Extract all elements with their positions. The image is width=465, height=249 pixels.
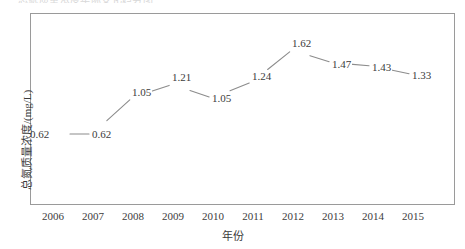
x-axis-tick-label: 2006: [33, 210, 73, 223]
data-point-label: 1.33: [411, 69, 432, 81]
x-axis-tick-label: 2007: [73, 210, 113, 223]
x-axis-tick-label: 2014: [353, 210, 393, 223]
series-total-nitrogen: [70, 52, 409, 134]
data-point-label: 1.62: [291, 37, 312, 49]
x-axis-tick-label: 2015: [393, 210, 433, 223]
data-point-label: 1.21: [171, 71, 192, 83]
series-segment: [230, 83, 249, 91]
x-axis-tick-label: 2013: [313, 210, 353, 223]
x-axis-tick-label: 2012: [273, 210, 313, 223]
x-axis-tick-label: 2010: [193, 210, 233, 223]
series-segment: [107, 100, 130, 121]
y-axis-title: 总氮质量浓度/(mg/L): [18, 90, 34, 190]
x-axis-tick-label: 2008: [113, 210, 153, 223]
series-segment: [268, 52, 290, 70]
x-axis-tick-label: 2011: [233, 210, 273, 223]
series-segment: [190, 90, 209, 96]
data-point-label: 0.62: [91, 128, 112, 140]
data-point-label: 1.05: [211, 92, 232, 104]
data-point-label: 1.24: [251, 70, 272, 82]
series-segment: [390, 70, 409, 74]
chart-page: 总氮质量浓度年际变化趋势图 0.620.621.051.211.051.241.…: [0, 0, 465, 249]
data-point-label: 1.05: [131, 86, 152, 98]
x-axis-title: 年份: [0, 227, 465, 243]
series-segment: [310, 56, 329, 62]
data-point-label: 1.43: [371, 61, 392, 73]
data-point-label: 1.47: [331, 58, 352, 70]
series-segment: [150, 85, 169, 91]
x-axis-tick-label: 2009: [153, 210, 193, 223]
series-segment: [350, 64, 369, 66]
